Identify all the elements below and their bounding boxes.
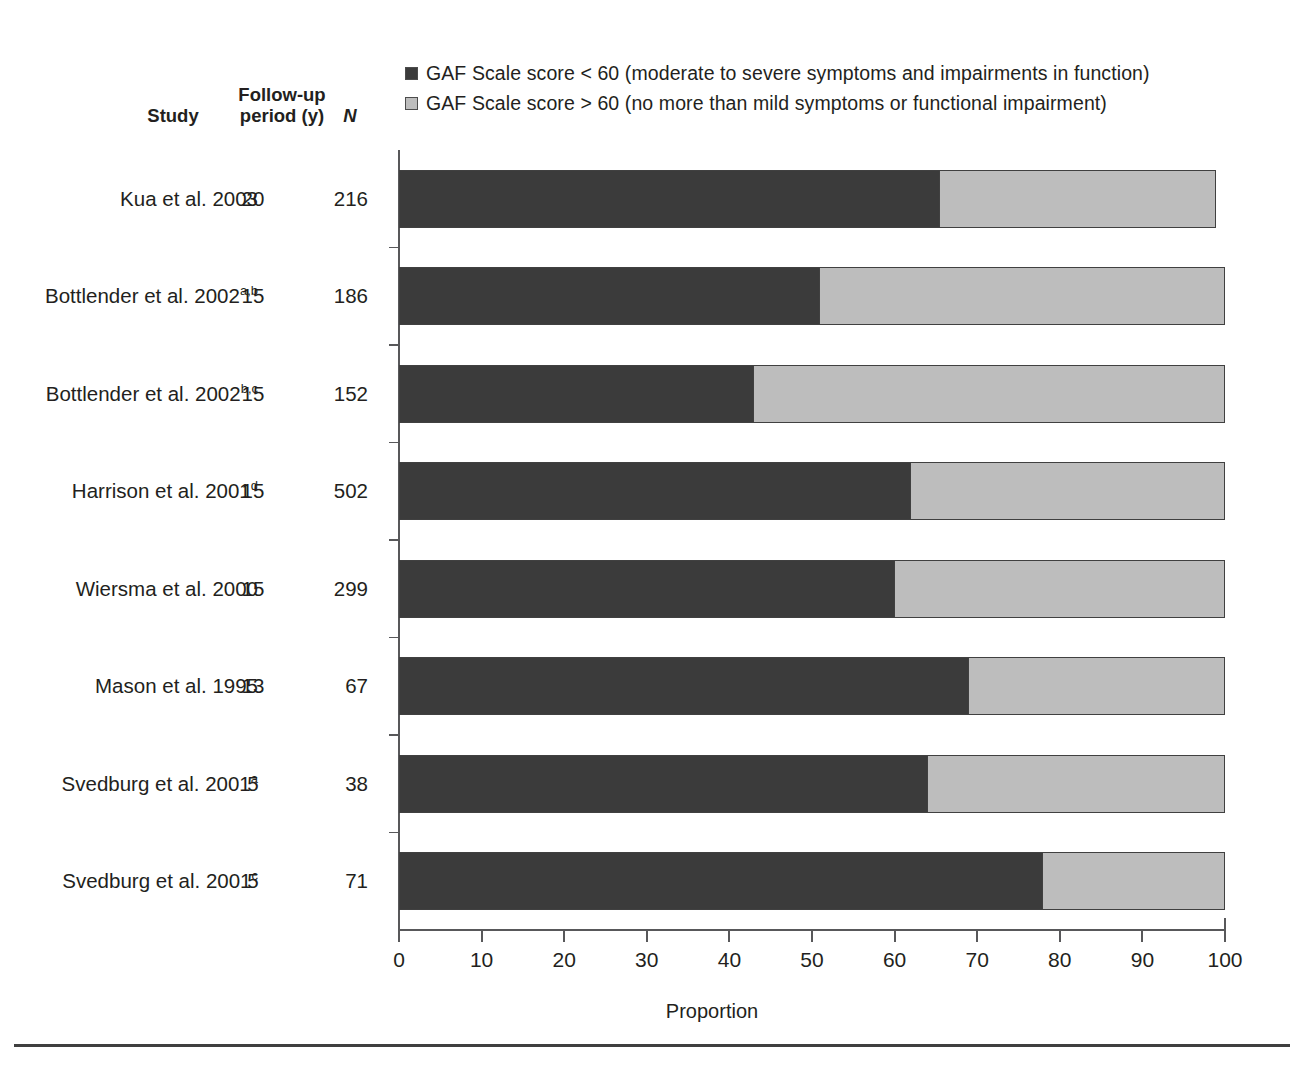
legend-item-light: GAF Scale score > 60 (no more than mild … (405, 88, 1245, 118)
column-header-followup-line1: Follow-up (222, 84, 342, 105)
bar-segment-gaf-above-60 (820, 267, 1225, 325)
column-header-followup-line2: period (y) (222, 105, 342, 126)
x-axis-ticklabel-10: 10 (442, 948, 522, 972)
x-axis-ticklabel-80: 80 (1020, 948, 1100, 972)
row-label-group: Harrison et al. 2001d15502 (0, 443, 382, 541)
x-axis-tick-100 (1224, 931, 1226, 942)
chart-row: Wiersma et al. 200015299 (0, 540, 1304, 638)
bar-segment-gaf-above-60 (911, 462, 1225, 520)
bar-segment-gaf-above-60 (1043, 852, 1225, 910)
row-label-group: Bottlender et al. 2002b,c15152 (0, 345, 382, 443)
legend-label-light: GAF Scale score > 60 (no more than mild … (426, 92, 1107, 115)
row-value-followup-years: 15 (232, 577, 274, 601)
row-value-n: 152 (290, 382, 368, 406)
x-axis-tick-30 (646, 931, 648, 942)
chart-row: Mason et al. 19951367 (0, 638, 1304, 736)
stacked-bar (399, 657, 1225, 715)
chart-row: Svedburg et al. 2001a538 (0, 735, 1304, 833)
legend-swatch-dark (405, 67, 418, 80)
x-axis-ticklabel-90: 90 (1102, 948, 1182, 972)
y-axis-row-separator-tick (389, 832, 400, 834)
row-label-group: Svedburg et al. 2001a538 (0, 735, 382, 833)
row-value-n: 67 (290, 674, 368, 698)
row-value-n: 216 (290, 187, 368, 211)
x-axis-tick-70 (976, 931, 978, 942)
chart-row: Bottlender et al. 2002b,c15152 (0, 345, 1304, 443)
x-axis-ticklabel-30: 30 (607, 948, 687, 972)
row-label-study: Bottlender et al. 2002a,b (45, 284, 258, 308)
bar-segment-gaf-below-60 (399, 365, 754, 423)
row-label-study: Wiersma et al. 2000 (76, 577, 258, 601)
y-axis-row-separator-tick (389, 344, 400, 346)
row-value-followup-years: 20 (232, 187, 274, 211)
row-value-n: 186 (290, 284, 368, 308)
y-axis-row-separator-tick (389, 539, 400, 541)
y-axis-row-separator-tick (389, 247, 400, 249)
bar-segment-gaf-above-60 (928, 755, 1225, 813)
row-value-followup-years: 13 (232, 674, 274, 698)
bar-segment-gaf-below-60 (399, 657, 969, 715)
row-value-followup-years: 5 (232, 772, 274, 796)
x-axis-ticklabel-40: 40 (689, 948, 769, 972)
stacked-bar (399, 170, 1225, 228)
row-value-followup-years: 15 (232, 284, 274, 308)
x-axis-tick-60 (894, 931, 896, 942)
row-label-group: Bottlender et al. 2002a,b15186 (0, 248, 382, 346)
x-axis-ticklabel-20: 20 (524, 948, 604, 972)
row-value-followup-years: 15 (232, 382, 274, 406)
chart-row: Harrison et al. 2001d15502 (0, 443, 1304, 541)
x-axis-ticklabel-100: 100 (1185, 948, 1265, 972)
bar-segment-gaf-above-60 (754, 365, 1225, 423)
row-label-study: Svedburg et al. 2001c (62, 869, 258, 893)
bar-segment-gaf-below-60 (399, 852, 1043, 910)
stacked-bar (399, 267, 1225, 325)
column-header-study: Study (118, 105, 228, 126)
chart-rows: Kua et al. 200320216Bottlender et al. 20… (0, 150, 1304, 930)
x-axis-tick-20 (563, 931, 565, 942)
stacked-bar (399, 755, 1225, 813)
legend-label-dark: GAF Scale score < 60 (moderate to severe… (426, 62, 1150, 85)
row-label-group: Mason et al. 19951367 (0, 638, 382, 736)
column-header-followup-period: Follow-up period (y) (222, 84, 342, 126)
row-value-n: 502 (290, 479, 368, 503)
chart-row: Bottlender et al. 2002a,b15186 (0, 248, 1304, 346)
y-axis-row-separator-tick (389, 637, 400, 639)
x-axis-tick-50 (811, 931, 813, 942)
bar-segment-gaf-below-60 (399, 267, 820, 325)
bar-segment-gaf-below-60 (399, 462, 911, 520)
row-label-column-headers: Study Follow-up period (y) N (0, 78, 390, 138)
row-label-group: Svedburg et al. 2001c571 (0, 833, 382, 931)
row-value-n: 299 (290, 577, 368, 601)
x-axis-title-text: Proportion (666, 1000, 758, 1022)
gaf-outcome-stacked-bar-figure: GAF Scale score < 60 (moderate to severe… (0, 0, 1304, 1068)
row-value-followup-years: 5 (232, 869, 274, 893)
x-axis-ticklabel-70: 70 (937, 948, 1017, 972)
x-axis-title: Proportion (0, 1000, 1304, 1023)
bar-segment-gaf-above-60 (969, 657, 1225, 715)
column-header-n: N (332, 105, 368, 126)
stacked-bar (399, 462, 1225, 520)
x-axis-ticklabel-60: 60 (855, 948, 935, 972)
bar-segment-gaf-above-60 (895, 560, 1225, 618)
row-label-group: Wiersma et al. 200015299 (0, 540, 382, 638)
bar-segment-gaf-below-60 (399, 755, 928, 813)
x-axis-tick-0 (398, 931, 400, 942)
stacked-bar (399, 365, 1225, 423)
row-value-n: 38 (290, 772, 368, 796)
x-axis-tick-40 (728, 931, 730, 942)
chart-legend: GAF Scale score < 60 (moderate to severe… (405, 58, 1245, 118)
x-axis-tick-80 (1059, 931, 1061, 942)
row-label-study: Bottlender et al. 2002b,c (46, 382, 258, 406)
legend-swatch-light (405, 97, 418, 110)
bar-segment-gaf-below-60 (399, 170, 940, 228)
row-label-study: Svedburg et al. 2001a (62, 772, 258, 796)
row-value-followup-years: 15 (232, 479, 274, 503)
row-label-study: Harrison et al. 2001d (72, 479, 258, 503)
x-axis-tick-90 (1141, 931, 1143, 942)
figure-bottom-rule (14, 1044, 1290, 1047)
y-axis-row-separator-tick (389, 734, 400, 736)
bar-segment-gaf-below-60 (399, 560, 895, 618)
row-value-n: 71 (290, 869, 368, 893)
chart-row: Kua et al. 200320216 (0, 150, 1304, 248)
bar-segment-gaf-above-60 (940, 170, 1216, 228)
